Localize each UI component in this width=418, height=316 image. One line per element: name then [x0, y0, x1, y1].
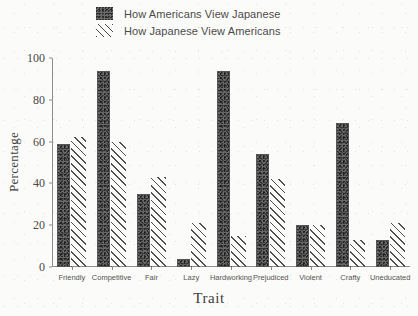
x-tick-mark: [350, 267, 351, 270]
x-tick-mark: [191, 267, 192, 270]
bar-americans-view-japanese: [177, 259, 190, 267]
x-tick-label: Fair: [145, 273, 158, 282]
bar-group: [217, 58, 246, 267]
bar-chart-figure: How Americans View Japanese How Japanese…: [0, 0, 418, 316]
x-tick-label: Violent: [299, 273, 322, 282]
bar-group: [57, 58, 86, 267]
x-tick-label: Lazy: [183, 273, 199, 282]
bar-group: [336, 58, 365, 267]
x-axis-title: Trait: [0, 290, 418, 307]
bar-japanese-view-americans: [390, 223, 405, 267]
legend-item-americans-view-japanese: How Americans View Japanese: [96, 5, 356, 22]
bar-americans-view-japanese: [336, 123, 349, 267]
x-tick-mark: [311, 267, 312, 270]
x-tick-mark: [72, 267, 73, 270]
x-tick-label: Hardworking: [210, 273, 252, 282]
bar-group: [256, 58, 285, 267]
x-tick-label: Friendly: [59, 273, 86, 282]
bar-japanese-view-americans: [151, 177, 166, 267]
bar-group: [97, 58, 126, 267]
x-tick-label: Competitive: [92, 273, 132, 282]
x-tick-mark: [390, 267, 391, 270]
bar-americans-view-japanese: [137, 194, 150, 267]
x-tick-label: Prejudiced: [253, 273, 288, 282]
bar-group: [177, 58, 206, 267]
bar-japanese-view-americans: [350, 240, 365, 267]
bar-group: [376, 58, 405, 267]
bar-americans-view-japanese: [256, 154, 269, 267]
x-tick-mark: [112, 267, 113, 270]
plot-area: 020406080100 FriendlyCompetitiveFairLazy…: [52, 58, 410, 267]
bar-americans-view-japanese: [376, 240, 389, 267]
legend-label: How Japanese View Americans: [124, 25, 281, 37]
chart-legend: How Americans View Japanese How Japanese…: [96, 5, 356, 39]
x-tick-mark: [151, 267, 152, 270]
hatch-square-icon: [96, 24, 113, 37]
x-tick-mark: [271, 267, 272, 270]
bar-americans-view-japanese: [97, 71, 110, 267]
bar-groups: [52, 58, 410, 267]
bar-americans-view-japanese: [57, 144, 70, 267]
legend-item-japanese-view-americans: How Japanese View Americans: [96, 22, 356, 39]
bar-japanese-view-americans: [111, 142, 126, 267]
bar-japanese-view-americans: [270, 179, 285, 267]
bar-japanese-view-americans: [231, 236, 246, 267]
bar-group: [296, 58, 325, 267]
legend-label: How Americans View Japanese: [124, 8, 281, 20]
x-tick-label: Crafty: [340, 273, 360, 282]
bar-japanese-view-americans: [191, 223, 206, 267]
bar-japanese-view-americans: [310, 225, 325, 267]
y-axis-title: Percentage: [6, 132, 22, 192]
bar-group: [137, 58, 166, 267]
x-tick-label: Uneducated: [370, 273, 410, 282]
x-tick-mark: [231, 267, 232, 270]
stipple-square-icon: [96, 7, 113, 20]
bar-americans-view-japanese: [217, 71, 230, 267]
bar-japanese-view-americans: [71, 137, 86, 267]
bar-americans-view-japanese: [296, 225, 309, 267]
